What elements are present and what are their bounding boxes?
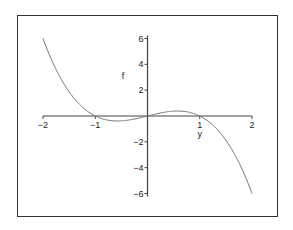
x-tick-label: 2	[249, 120, 254, 130]
y-tick-label: −2	[133, 137, 143, 147]
x-tick-label: −2	[38, 120, 48, 130]
x-axis-label: y	[198, 129, 203, 139]
x-tick-label: −1	[90, 120, 100, 130]
y-tick-label: 6	[138, 34, 143, 44]
y-tick-label: −4	[133, 163, 143, 173]
y-tick-label: 2	[138, 85, 143, 95]
y-tick-label: −6	[133, 189, 143, 199]
plot-area: −2−112642−2−4−6 y f	[0, 0, 293, 230]
y-axis-label: f	[122, 71, 125, 81]
y-tick-label: 4	[138, 59, 143, 69]
